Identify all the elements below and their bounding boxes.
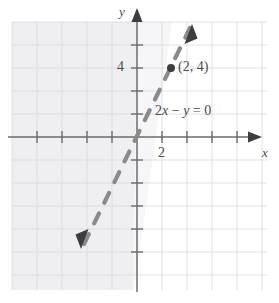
shaded-region xyxy=(12,22,172,290)
coordinate-plane-canvas xyxy=(0,0,279,303)
point-label-2-4: (2, 4) xyxy=(178,60,208,74)
y-axis-label: y xyxy=(119,5,125,18)
equation-label: 2x − y = 0 xyxy=(155,104,211,118)
equation-minus: − xyxy=(168,103,183,118)
equation-term-2x: 2x xyxy=(155,103,168,118)
equation-equals-zero: = 0 xyxy=(189,103,211,118)
data-point-marker xyxy=(167,64,175,72)
x-axis-label: x xyxy=(262,146,268,159)
graph-figure: y x 4 2 (2, 4) 2x − y = 0 xyxy=(0,0,279,303)
x-tick-label-2: 2 xyxy=(158,146,165,160)
x-axis-arrowhead-icon xyxy=(248,132,262,143)
y-axis-arrowhead-icon xyxy=(132,8,143,22)
shade-fill-feather xyxy=(133,22,173,290)
y-tick-label-4: 4 xyxy=(117,60,124,74)
